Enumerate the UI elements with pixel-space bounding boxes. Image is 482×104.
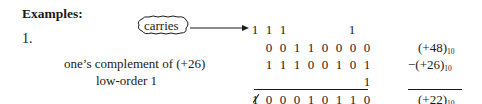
example-number: 1.: [22, 32, 33, 46]
bit: 1: [264, 57, 274, 73]
bit: 1: [334, 57, 344, 73]
bit: 0: [264, 92, 274, 104]
bit: 0: [362, 92, 372, 104]
addend2-row: 1 1 1 0 0 1 0 1: [250, 57, 370, 71]
bit: 0: [320, 92, 330, 104]
bit: 1: [292, 40, 302, 56]
carry-bit: 1: [278, 22, 288, 38]
arrow-right-icon: [190, 22, 250, 34]
decimal-result: (+22)10: [418, 93, 455, 104]
sum-rule: [254, 89, 368, 90]
bit: 0: [278, 92, 288, 104]
addend1-row: 0 0 1 1 0 0 0 0: [250, 40, 370, 54]
bit: 0: [348, 40, 358, 56]
bit: 0: [320, 57, 330, 73]
low-order-row: 1: [250, 74, 370, 88]
bit: 1: [292, 57, 302, 73]
bit: 1: [334, 92, 344, 104]
decimal-addend1: (+48)10: [418, 41, 455, 56]
bit: 0: [334, 40, 344, 56]
carries-row: 1 1 1 1: [250, 22, 370, 36]
bit: 1: [348, 92, 358, 104]
carry-bit: 1: [347, 22, 357, 38]
ones-complement-label: one’s complement of (+26): [64, 57, 205, 70]
bit: 0: [264, 40, 274, 56]
bit: 0: [362, 40, 372, 56]
low-order-label: low-order 1: [96, 74, 157, 87]
carry-bit: 1: [250, 22, 260, 38]
decimal-addend2: −(+26)10: [408, 58, 452, 73]
bit: 0: [320, 40, 330, 56]
carries-label: carries: [144, 19, 179, 32]
bit: 1: [362, 74, 372, 90]
discarded-carry-bit: 1: [252, 92, 259, 104]
bit: 1: [306, 40, 316, 56]
examples-heading: Examples:: [22, 7, 83, 21]
bit: 0: [278, 40, 288, 56]
bit: 0: [348, 57, 358, 73]
result-row: 1 0 0 0 1 0 1 1 0: [250, 92, 370, 104]
bit: 0: [292, 92, 302, 104]
bit: 1: [362, 57, 372, 73]
bit: 1: [306, 92, 316, 104]
decimal-sum-rule: [408, 89, 462, 90]
carry-bit: 1: [264, 22, 274, 38]
bit: 1: [278, 57, 288, 73]
bit: 0: [306, 57, 316, 73]
